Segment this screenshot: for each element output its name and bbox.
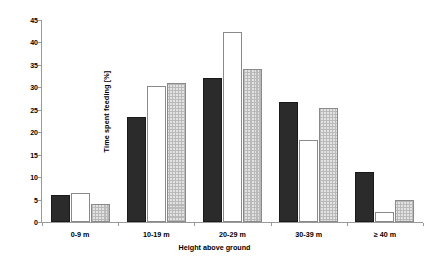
- bar: [71, 193, 90, 222]
- x-axis-tick-mark: [271, 223, 272, 226]
- x-axis-tick-label: 10-19 m: [143, 230, 170, 239]
- bar: [127, 117, 146, 222]
- bar: [319, 108, 338, 222]
- y-axis-tick-label: 45: [30, 17, 38, 24]
- y-axis-tick-labels: 051015202530354045: [18, 14, 38, 228]
- x-axis-title: Height above ground: [0, 243, 429, 252]
- bar: [51, 195, 70, 222]
- x-axis-tick-label: ≥ 40 m: [374, 230, 396, 239]
- y-axis-tick-mark: [38, 20, 41, 21]
- bar: [203, 78, 222, 222]
- y-axis-tick-label: 30: [30, 84, 38, 91]
- plot-area: [42, 20, 423, 222]
- y-axis-tick-mark: [38, 110, 41, 111]
- y-axis-tick-label: 20: [30, 129, 38, 136]
- y-axis-tick-label: 35: [30, 61, 38, 68]
- x-axis-line: [41, 222, 423, 223]
- bar: [147, 86, 166, 222]
- y-axis-tick-mark: [38, 200, 41, 201]
- x-axis-tick-label: 0-9 m: [71, 230, 90, 239]
- bar: [91, 204, 110, 222]
- x-axis-tick-label: 20-29 m: [219, 230, 246, 239]
- x-axis-tick-mark: [194, 223, 195, 226]
- y-axis-tick-label: 15: [30, 151, 38, 158]
- bar: [299, 140, 318, 222]
- y-axis-tick-label: 40: [30, 39, 38, 46]
- y-axis-tick-mark: [38, 42, 41, 43]
- bar: [243, 69, 262, 222]
- y-axis-tick-mark: [38, 132, 41, 133]
- x-axis-tick-mark: [118, 223, 119, 226]
- bar: [167, 83, 186, 222]
- y-axis-tick-mark: [38, 65, 41, 66]
- x-axis-tick-mark: [423, 223, 424, 226]
- y-axis-tick-mark: [38, 155, 41, 156]
- bar: [355, 172, 374, 222]
- y-axis-tick-label: 10: [30, 174, 38, 181]
- y-axis-tick-mark: [38, 87, 41, 88]
- bar: [279, 102, 298, 222]
- x-axis-tick-mark: [347, 223, 348, 226]
- x-axis-tick-label: 30-39 m: [295, 230, 322, 239]
- y-axis-tick-mark: [38, 177, 41, 178]
- bar: [395, 200, 414, 222]
- bar-chart-figure: Time spent feeding [%] 05101520253035404…: [0, 0, 429, 263]
- x-axis-tick-mark: [42, 223, 43, 226]
- y-axis-tick-mark: [38, 222, 41, 223]
- bar: [375, 212, 394, 222]
- y-axis-tick-label: 25: [30, 106, 38, 113]
- bar: [223, 32, 242, 222]
